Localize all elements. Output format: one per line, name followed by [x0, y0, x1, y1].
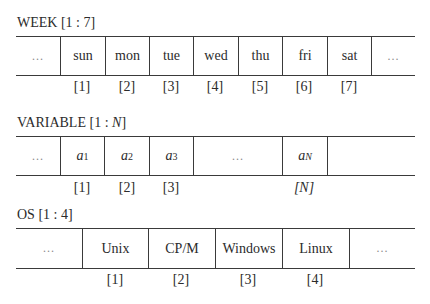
- os-cell-cpm: CP/M: [148, 229, 215, 268]
- week-cell-leading-ellipsis: …: [16, 37, 60, 75]
- os-index-1: [1]: [107, 272, 123, 288]
- variable-cell-trailing-empty: [327, 137, 415, 175]
- variable-cell-aN: aN: [282, 137, 327, 175]
- variable-title-range-suffix: ]: [121, 115, 126, 130]
- os-cell-linux: Linux: [282, 229, 349, 268]
- variable-title-range: [1 : N]: [89, 115, 126, 130]
- os-array-title: OS [1 : 4]: [17, 207, 73, 223]
- os-title-range: [1 : 4]: [38, 207, 72, 222]
- week-cell-sun: sun: [60, 37, 105, 75]
- week-cell-tue: tue: [149, 37, 193, 75]
- variable-cell-leading-ellipsis-text: …: [32, 149, 45, 164]
- os-title-name: OS: [17, 207, 35, 222]
- week-index-5: [5]: [252, 79, 268, 95]
- week-array-row: … sun mon tue wed thu fri sat …: [16, 36, 415, 76]
- variable-cell-middle-ellipsis: …: [193, 137, 282, 175]
- week-index-3: [3]: [163, 79, 179, 95]
- week-index-2: [2]: [119, 79, 135, 95]
- variable-cell-a3: a3: [149, 137, 193, 175]
- os-index-2: [2]: [173, 272, 189, 288]
- variable-cell-aN-sub-text: N: [305, 151, 312, 162]
- variable-cell-a2-sub: 2: [128, 151, 133, 162]
- week-index-7: [7]: [341, 79, 357, 95]
- week-cell-fri: fri: [282, 37, 327, 75]
- variable-cell-a2-base: a: [121, 148, 128, 164]
- variable-array-row: … a1 a2 a3 … aN: [16, 136, 415, 176]
- week-cell-mon: mon: [105, 37, 149, 75]
- os-cell-leading-ellipsis: …: [16, 229, 82, 268]
- week-index-1: [1]: [74, 79, 90, 95]
- variable-cell-leading-ellipsis: …: [16, 137, 60, 175]
- week-array-title: WEEK [1 : 7]: [17, 15, 95, 31]
- week-title-range: [1 : 7]: [61, 15, 95, 30]
- variable-index-N: [N]: [294, 180, 314, 196]
- os-index-3: [3]: [240, 272, 256, 288]
- variable-cell-a1-sub: 1: [84, 151, 89, 162]
- week-cell-sat: sat: [327, 37, 371, 75]
- week-index-4: [4]: [207, 79, 223, 95]
- variable-cell-a3-base: a: [166, 148, 173, 164]
- variable-cell-a3-sub: 3: [173, 151, 178, 162]
- week-index-6: [6]: [296, 79, 312, 95]
- os-index-4: [4]: [307, 272, 323, 288]
- variable-cell-a1-base: a: [77, 148, 84, 164]
- variable-title-range-var: N: [112, 115, 121, 130]
- os-cell-windows: Windows: [215, 229, 282, 268]
- variable-index-1: [1]: [74, 180, 90, 196]
- variable-index-3: [3]: [163, 180, 179, 196]
- variable-index-2: [2]: [119, 180, 135, 196]
- variable-cell-a1: a1: [60, 137, 104, 175]
- variable-title-name: VARIABLE: [17, 115, 86, 130]
- variable-array-title: VARIABLE [1 : N]: [17, 115, 126, 131]
- variable-cell-middle-ellipsis-text: …: [232, 149, 245, 164]
- variable-cell-aN-sub: N: [305, 151, 312, 162]
- os-array-row: … Unix CP/M Windows Linux …: [16, 228, 415, 269]
- variable-title-range-prefix: [1 :: [89, 115, 112, 130]
- variable-cell-a2: a2: [104, 137, 149, 175]
- week-cell-thu: thu: [238, 37, 282, 75]
- week-cell-wed: wed: [193, 37, 238, 75]
- os-cell-trailing-ellipsis: …: [349, 229, 415, 268]
- week-title-name: WEEK: [17, 15, 57, 30]
- week-cell-trailing-ellipsis: …: [371, 37, 415, 75]
- os-cell-unix: Unix: [82, 229, 148, 268]
